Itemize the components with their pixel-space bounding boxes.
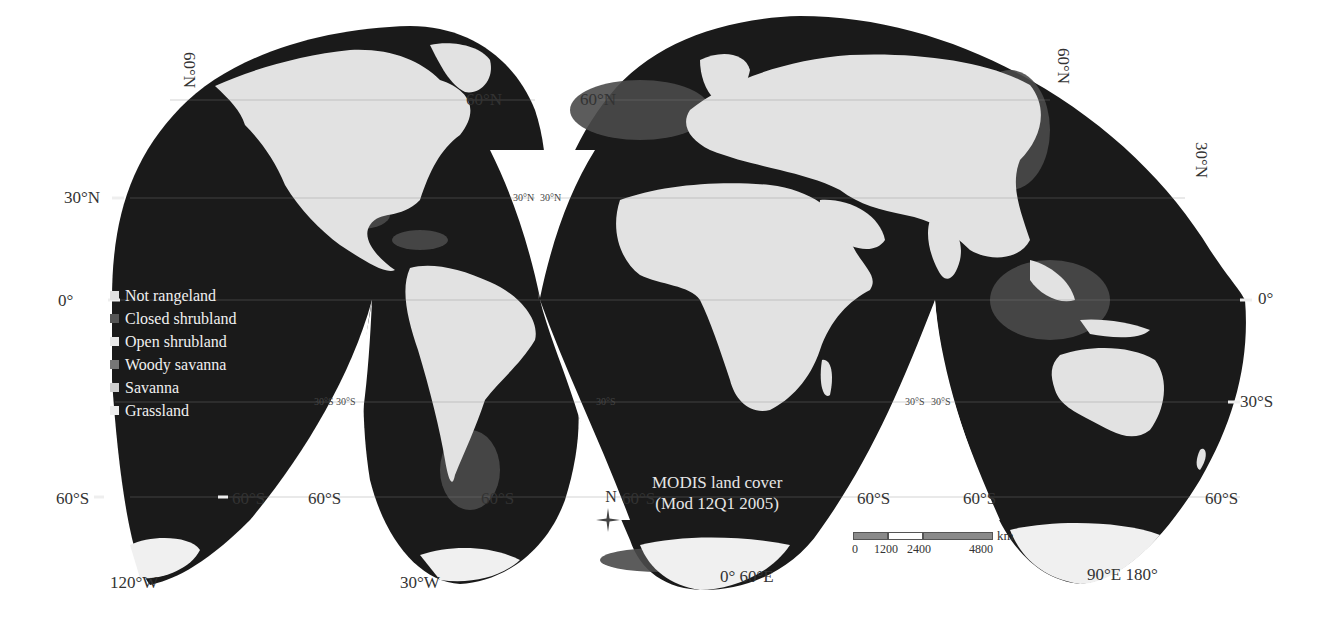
lat-label-30s-gap3-a: 30°S: [905, 397, 925, 407]
legend-swatch: [110, 337, 119, 346]
lat-label-30s-gap3-b: 30°S: [931, 397, 951, 407]
lat-label-60s-l4-left: 60°S: [963, 490, 996, 507]
caption-source: (Mod 12Q1 2005): [652, 493, 782, 514]
lon-label-90e-180: 90°E 180°: [1087, 566, 1158, 583]
compass-star-icon: [594, 506, 622, 534]
legend-swatch: [110, 383, 119, 392]
legend-item-woody-savanna: Woody savanna: [110, 353, 237, 376]
legend-label: Not rangeland: [125, 287, 216, 305]
legend-swatch: [110, 406, 119, 415]
lat-label-30n-gap-a: 30°N: [513, 193, 534, 203]
lat-label-60n-na-right: 60°N: [466, 91, 502, 108]
lat-label-60s-l1-left: 60°S: [56, 490, 89, 507]
legend-label: Open shrubland: [125, 333, 227, 351]
lat-label-60s-l4-right: 60°S: [1205, 490, 1238, 507]
lat-label-0-left: 0°: [58, 292, 73, 309]
lat-label-60n-eurasia-left: 60°N: [580, 91, 616, 108]
lon-label-120w: 120°W: [110, 574, 158, 591]
scale-unit: km: [997, 532, 1014, 540]
scale-tick-0: 0: [852, 542, 858, 557]
caption-title: MODIS land cover: [652, 472, 782, 493]
land-cover-legend: Not rangeland Closed shrubland Open shru…: [110, 284, 237, 422]
legend-label: Grassland: [125, 402, 189, 420]
map-caption: MODIS land cover (Mod 12Q1 2005): [652, 472, 782, 514]
scale-tick-1200: 1200: [874, 542, 898, 557]
scale-tick-2400: 2400: [907, 542, 931, 557]
legend-item-open-shrubland: Open shrubland: [110, 330, 237, 353]
legend-item-closed-shrubland: Closed shrubland: [110, 307, 237, 330]
legend-swatch: [110, 314, 119, 323]
scale-bar: km 0 1200 2400 4800: [853, 532, 1014, 554]
lat-label-30s-gap1-b: 30°S: [336, 397, 356, 407]
lat-label-60s-l2-left: 60°S: [308, 490, 341, 507]
legend-label: Closed shrubland: [125, 310, 237, 328]
north-arrow: N: [600, 488, 622, 538]
north-label: N: [600, 488, 622, 506]
legend-swatch: [110, 360, 119, 369]
lat-label-60n-right: 60°N: [1055, 48, 1072, 84]
lat-label-30s-right: 30°S: [1240, 393, 1273, 410]
lat-label-60s-l1-right: 60°S: [232, 490, 265, 507]
lat-label-60s-l3-right: 60°S: [857, 490, 890, 507]
lat-label-60s-l2-right: 60°S: [481, 490, 514, 507]
lat-label-30n-left: 30°N: [64, 189, 100, 206]
lat-label-30s-gap2: 30°S: [596, 397, 616, 407]
legend-label: Savanna: [125, 379, 179, 397]
legend-label: Woody savanna: [125, 356, 226, 374]
lon-label-30w: 30°W: [400, 574, 440, 591]
lat-label-0-right: 0°: [1258, 290, 1273, 307]
lat-label-30n-gap-b: 30°N: [540, 193, 561, 203]
lat-label-60n-left: 60°N: [181, 52, 198, 88]
lat-label-30n-right: 30°N: [1193, 142, 1210, 178]
legend-item-not-rangeland: Not rangeland: [110, 284, 237, 307]
lat-label-30s-gap1-a: 30°S: [314, 397, 334, 407]
lon-label-0-60e: 0° 60°E: [720, 568, 774, 585]
legend-item-grassland: Grassland: [110, 399, 237, 422]
lat-label-60s-l3-left: 60°S: [622, 490, 655, 507]
legend-item-savanna: Savanna: [110, 376, 237, 399]
legend-swatch: [110, 291, 119, 300]
scale-tick-4800: 4800: [969, 542, 993, 557]
scale-ticks: 0 1200 2400 4800: [853, 540, 1014, 554]
